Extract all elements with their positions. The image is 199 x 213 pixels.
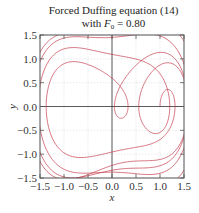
y-tick-label: 0.0	[23, 101, 37, 113]
y-tick-label: 1.5	[23, 29, 37, 41]
x-tick-label: 1.5	[177, 180, 191, 192]
x-tick-label: −0.5	[78, 180, 98, 192]
y-axis-label: y	[6, 104, 18, 110]
y-tick-labels: −1.5−1.0−0.50.00.51.01.5	[17, 29, 37, 184]
y-tick-label: −1.5	[17, 172, 37, 184]
y-tick-label: −1.0	[17, 148, 37, 160]
plot-area: −1.5−1.0−0.50.00.51.01.5 −1.5−1.0−0.50.0…	[0, 0, 199, 213]
y-tick-label: 0.5	[23, 77, 37, 89]
x-tick-label: 1.0	[153, 180, 167, 192]
y-tick-label: −0.5	[17, 124, 37, 136]
x-axis-label: x	[109, 191, 115, 203]
x-tick-label: 0.5	[129, 180, 143, 192]
x-tick-label: −1.0	[54, 180, 74, 192]
y-tick-label: 1.0	[23, 53, 37, 65]
zero-lines	[40, 35, 184, 178]
